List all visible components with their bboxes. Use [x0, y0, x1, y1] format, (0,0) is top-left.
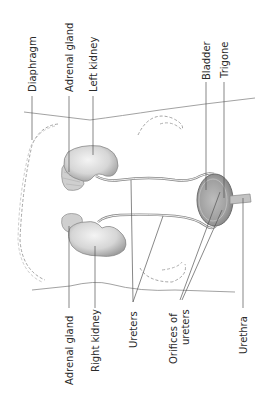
- label-adrenal-gland-right: Adrenal gland: [64, 316, 75, 385]
- dashed-outline-lower: [140, 264, 185, 282]
- label-bladder: Bladder: [201, 41, 212, 80]
- label-orifices-line1: Orifices of: [168, 313, 179, 364]
- leader-ureters-2: [133, 216, 163, 302]
- label-right-kidney: Right kidney: [90, 309, 101, 372]
- right-kidney: [68, 222, 126, 257]
- label-orifices-line2: ureters: [180, 309, 191, 345]
- urinary-system-diagram: Diaphragm Adrenal gland Left kidney Blad…: [0, 0, 261, 398]
- label-diaphragm: Diaphragm: [27, 36, 38, 92]
- diaphragm-dashed: [20, 124, 58, 280]
- label-left-kidney: Left kidney: [88, 37, 99, 92]
- label-trigone: Trigone: [219, 42, 230, 78]
- body-outline-bottom: [32, 282, 235, 292]
- urethra: [230, 194, 251, 204]
- left-kidney: [64, 146, 118, 182]
- label-ureters: Ureters: [128, 311, 139, 348]
- label-urethra: Urethra: [238, 316, 249, 354]
- leader-ureters-1: [131, 180, 133, 302]
- body-outline-top: [24, 98, 255, 120]
- label-adrenal-gland-left: Adrenal gland: [64, 23, 75, 92]
- bladder: [197, 174, 233, 226]
